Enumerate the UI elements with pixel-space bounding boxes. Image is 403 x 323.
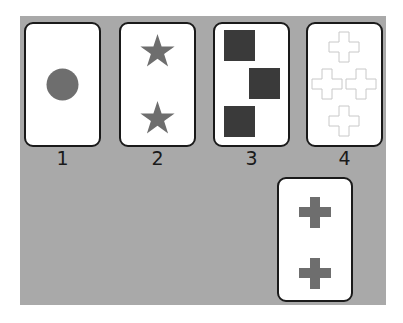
reference-card-1[interactable] (24, 22, 101, 147)
card-label-4: 4 (306, 148, 383, 168)
cross-icon (279, 179, 351, 300)
cross-icon (308, 24, 381, 145)
square-icon (215, 24, 288, 145)
card-label-2: 2 (119, 148, 196, 168)
card-label-1: 1 (24, 148, 101, 168)
reference-card-2[interactable] (119, 22, 196, 147)
star-icon (121, 24, 194, 145)
reference-card-4[interactable] (306, 22, 383, 147)
reference-card-3[interactable] (213, 22, 290, 147)
stimulus-card[interactable] (277, 177, 353, 302)
circle-icon (26, 24, 99, 145)
card-label-3: 3 (213, 148, 290, 168)
